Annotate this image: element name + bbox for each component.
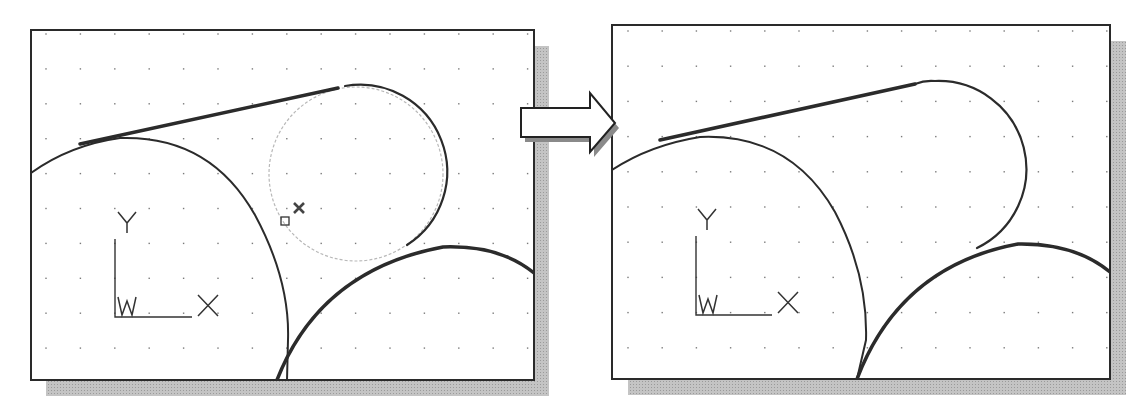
- grid-dot: [1072, 277, 1073, 278]
- grid-dot: [321, 313, 322, 314]
- grid-dot: [527, 278, 528, 279]
- grid-dot: [1038, 101, 1039, 102]
- grid-dot: [183, 103, 184, 104]
- grid-dot: [764, 171, 765, 172]
- grid-dot: [217, 138, 218, 139]
- grid-dot: [424, 138, 425, 139]
- grid-dot: [458, 347, 459, 348]
- grid-dot: [458, 243, 459, 244]
- grid-dot: [798, 101, 799, 102]
- grid-dot: [1038, 171, 1039, 172]
- grid-dot: [969, 171, 970, 172]
- grid-dot: [833, 30, 834, 31]
- grid-dot: [183, 173, 184, 174]
- grid-dot: [1072, 101, 1073, 102]
- grid-dot: [1106, 347, 1107, 348]
- grid-dot: [286, 208, 287, 209]
- grid-dot: [935, 66, 936, 67]
- grid-dot: [252, 278, 253, 279]
- grid-dot: [764, 136, 765, 137]
- grid-dot: [1106, 171, 1107, 172]
- grid-dot: [114, 173, 115, 174]
- grid-dot: [1072, 171, 1073, 172]
- grid-dot: [149, 33, 150, 34]
- grid-dot: [798, 30, 799, 31]
- grid-dot: [662, 312, 663, 313]
- grid-dot: [149, 347, 150, 348]
- grid-dot: [355, 208, 356, 209]
- grid-dot: [424, 68, 425, 69]
- grid-dot: [696, 206, 697, 207]
- grid-dot: [217, 173, 218, 174]
- grid-dot: [1038, 277, 1039, 278]
- grid-dot: [867, 347, 868, 348]
- grid-dot: [45, 103, 46, 104]
- grid-dot: [45, 68, 46, 69]
- grid-dot: [764, 277, 765, 278]
- grid-dot: [493, 243, 494, 244]
- grid-dot: [627, 312, 628, 313]
- grid-dot: [321, 103, 322, 104]
- grid-dot: [389, 173, 390, 174]
- grid-dot: [114, 103, 115, 104]
- grid-dot: [627, 30, 628, 31]
- grid-dot: [80, 313, 81, 314]
- grid-dot: [493, 173, 494, 174]
- grid-dot: [730, 312, 731, 313]
- grid-dot: [867, 277, 868, 278]
- grid-dot: [355, 33, 356, 34]
- grid-dot: [252, 313, 253, 314]
- grid-dot: [389, 278, 390, 279]
- grid-dot: [389, 68, 390, 69]
- grid-dot: [901, 66, 902, 67]
- grid-dot: [1038, 66, 1039, 67]
- drawing-frame: [612, 25, 1110, 379]
- grid-dot: [458, 313, 459, 314]
- grid-dot: [696, 171, 697, 172]
- grid-dot: [252, 347, 253, 348]
- grid-dot: [114, 68, 115, 69]
- grid-dot: [730, 347, 731, 348]
- grid-dot: [696, 347, 697, 348]
- grid-dot: [798, 206, 799, 207]
- grid-dot: [149, 278, 150, 279]
- grid-dot: [627, 206, 628, 207]
- grid-dot: [1004, 206, 1005, 207]
- grid-dot: [1004, 30, 1005, 31]
- grid-dot: [252, 138, 253, 139]
- grid-dot: [935, 101, 936, 102]
- grid-dot: [45, 278, 46, 279]
- grid-dot: [149, 173, 150, 174]
- grid-dot: [1038, 312, 1039, 313]
- grid-dot: [662, 171, 663, 172]
- grid-dot: [114, 33, 115, 34]
- grid-dot: [1038, 347, 1039, 348]
- grid-dot: [424, 313, 425, 314]
- grid-dot: [424, 208, 425, 209]
- grid-dot: [627, 101, 628, 102]
- grid-dot: [424, 103, 425, 104]
- grid-dot: [286, 138, 287, 139]
- grid-dot: [1072, 206, 1073, 207]
- grid-dot: [80, 103, 81, 104]
- grid-dot: [424, 243, 425, 244]
- grid-dot: [424, 173, 425, 174]
- grid-dot: [389, 313, 390, 314]
- grid-dot: [901, 347, 902, 348]
- grid-dot: [1072, 66, 1073, 67]
- grid-dot: [764, 66, 765, 67]
- grid-dot: [355, 313, 356, 314]
- grid-dot: [730, 136, 731, 137]
- grid-dot: [217, 33, 218, 34]
- panel-before: [31, 30, 549, 396]
- grid-dot: [355, 138, 356, 139]
- grid-dot: [217, 347, 218, 348]
- grid-dot: [527, 33, 528, 34]
- grid-dot: [527, 313, 528, 314]
- fillet-before-after-diagram: [0, 0, 1144, 403]
- grid-dot: [183, 138, 184, 139]
- grid-dot: [45, 138, 46, 139]
- grid-dot: [389, 138, 390, 139]
- grid-dot: [1072, 347, 1073, 348]
- grid-dot: [662, 30, 663, 31]
